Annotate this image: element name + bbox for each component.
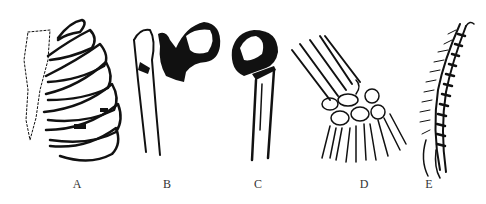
panel-label-d: D xyxy=(360,177,369,192)
vertebrae xyxy=(437,34,465,146)
panel-a-rib-cage xyxy=(24,20,121,161)
panel-c-fractured-femur xyxy=(232,30,278,160)
skeletal-figure xyxy=(0,0,486,204)
panel-e-spine xyxy=(420,22,474,178)
panel-label-c: C xyxy=(254,177,262,192)
panel-label-a: A xyxy=(73,177,82,192)
panel-b-femur xyxy=(134,22,220,155)
panel-label-e: E xyxy=(425,177,432,192)
panel-label-b: B xyxy=(163,177,171,192)
panel-d-hand xyxy=(292,36,406,162)
